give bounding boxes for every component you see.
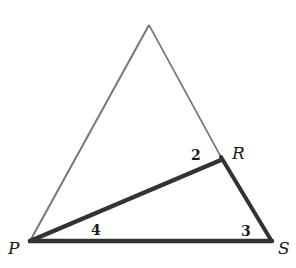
angle-label-2: 2 bbox=[191, 147, 201, 163]
angle-label-3: 3 bbox=[241, 223, 251, 239]
side-apex-p bbox=[30, 25, 149, 241]
segment-pr bbox=[30, 160, 221, 241]
vertex-label-s: S bbox=[278, 238, 290, 258]
angle-label-4: 4 bbox=[91, 222, 101, 238]
diagram-canvas: R P S 2 4 3 bbox=[0, 0, 296, 268]
vertex-label-p: P bbox=[7, 238, 20, 258]
vertex-label-r: R bbox=[231, 143, 245, 163]
side-apex-r bbox=[149, 25, 221, 157]
triangle-diagram: R P S 2 4 3 bbox=[0, 0, 296, 268]
